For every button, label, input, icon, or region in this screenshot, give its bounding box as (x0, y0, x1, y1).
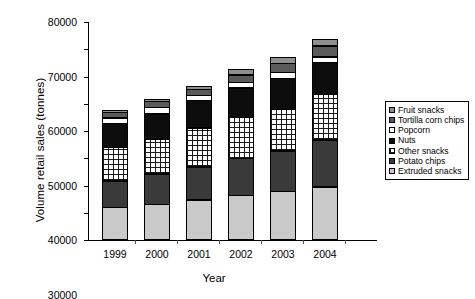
bar-segment (228, 117, 254, 159)
plot-area: 0100002000030000400005000060000700008000… (88, 22, 340, 240)
legend-label: Potato chips (398, 157, 445, 166)
bar-segment (102, 207, 128, 240)
y-tick-label: 70000 (48, 71, 77, 83)
x-tick-label: 2003 (271, 248, 294, 260)
x-tick-mark (135, 240, 136, 244)
legend-swatch-icon (389, 148, 395, 154)
y-tick-mark: 80000 (84, 22, 88, 23)
bar-segment (144, 114, 170, 140)
legend-swatch-icon (389, 127, 395, 133)
y-tick-label: 80000 (48, 16, 77, 28)
legend-item-fruit-snacks[interactable]: Fruit snacks (389, 105, 464, 115)
x-tick-label: 2000 (145, 248, 168, 260)
x-axis-title: Year (88, 272, 340, 284)
y-tick-mark: 0 (84, 240, 88, 241)
x-tick-mark (261, 240, 262, 244)
x-tick-label: 2004 (313, 248, 336, 260)
y-tick-label: 30000 (48, 289, 77, 299)
legend-swatch-icon (389, 117, 395, 123)
y-tick-label: 60000 (48, 125, 77, 137)
y-tick-mark: 40000 (84, 131, 88, 132)
legend-swatch-icon (389, 168, 395, 174)
legend-item-nuts[interactable]: Nuts (389, 136, 464, 146)
y-tick-mark: 10000 (84, 213, 88, 214)
legend-item-tortilla-corn-chips[interactable]: Tortilla corn chips (389, 115, 464, 125)
legend-label: Fruit snacks (398, 106, 444, 115)
y-tick-mark: 20000 (84, 186, 88, 187)
bar-segment (270, 109, 296, 151)
bar-segment (270, 78, 296, 109)
x-tick-mark (345, 240, 346, 244)
bar-2003 (270, 58, 296, 240)
x-axis-line (88, 240, 377, 241)
y-tick-mark: 50000 (84, 104, 88, 105)
y-axis-line (88, 22, 89, 240)
bar-segment (312, 46, 338, 57)
bar-segment (228, 158, 254, 196)
bar-segment (312, 187, 338, 240)
bar-segment (186, 200, 212, 240)
legend-swatch-icon (389, 138, 395, 144)
y-tick-mark: 70000 (84, 49, 88, 50)
bar-2001 (186, 86, 212, 240)
bar-2000 (144, 100, 170, 240)
stacked-bar-chart: Volume retail sales (tonnes) 01000020000… (0, 0, 475, 299)
legend-item-other-snacks[interactable]: Other snacks (389, 146, 464, 156)
x-tick-label: 1999 (103, 248, 126, 260)
legend-label: Extruded snacks (398, 167, 462, 176)
bar-segment (270, 191, 296, 240)
bar-segment (102, 147, 128, 181)
x-tick-mark (303, 240, 304, 244)
y-tick-label: 40000 (48, 234, 77, 246)
legend-item-potato-chips[interactable]: Potato chips (389, 156, 464, 166)
y-tick-mark: 30000 (84, 158, 88, 159)
bar-segment (102, 181, 128, 208)
bar-segment (228, 88, 254, 118)
legend-item-extruded-snacks[interactable]: Extruded snacks (389, 166, 464, 176)
bar-segment (312, 94, 338, 140)
bar-segment (144, 139, 170, 174)
bar-1999 (102, 111, 128, 240)
chart-legend: Fruit snacksTortilla corn chipsPopcornNu… (385, 101, 469, 180)
bar-segment (228, 195, 254, 240)
bar-2002 (228, 70, 254, 240)
legend-label: Other snacks (398, 147, 449, 156)
x-tick-label: 2001 (187, 248, 210, 260)
x-tick-label: 2002 (229, 248, 252, 260)
y-tick-mark: 60000 (84, 77, 88, 78)
bar-segment (102, 123, 128, 148)
bar-segment (186, 167, 212, 201)
bar-segment (270, 151, 296, 192)
legend-swatch-icon (389, 107, 395, 113)
bar-segment (186, 128, 212, 168)
bar-segment (312, 140, 338, 188)
legend-label: Popcorn (398, 126, 430, 135)
x-tick-mark (219, 240, 220, 244)
legend-label: Tortilla corn chips (398, 116, 464, 125)
y-axis-title: Volume retail sales (tonnes) (34, 50, 46, 250)
y-tick-label: 50000 (48, 180, 77, 192)
x-tick-mark (177, 240, 178, 244)
legend-item-popcorn[interactable]: Popcorn (389, 125, 464, 135)
legend-label: Nuts (398, 136, 416, 145)
bar-segment (312, 62, 338, 95)
bar-segment (144, 174, 170, 205)
bar-segment (144, 204, 170, 240)
bar-segment (186, 100, 212, 128)
legend-swatch-icon (389, 158, 395, 164)
bar-2004 (312, 40, 338, 240)
